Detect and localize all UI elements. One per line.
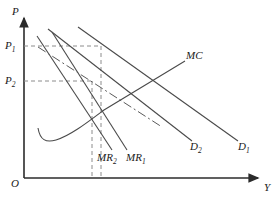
y-axis-label: P	[12, 6, 19, 17]
economics-diagram: P Y O P1 P2 MC D1 D2 MR1 MR2	[0, 0, 278, 202]
marginal-revenue-mr1	[52, 32, 127, 150]
price-tick-p2-label: P2	[5, 75, 15, 89]
x-axis-label: Y	[264, 182, 270, 193]
diagram-canvas	[0, 0, 278, 202]
curve-label-mr2: MR2	[97, 152, 117, 166]
curve-label-mr1: MR1	[126, 152, 146, 166]
curve-label-d2: D2	[190, 141, 202, 155]
price-tick-p1-label: P1	[5, 40, 15, 54]
marginal-cost-curve	[38, 61, 185, 141]
origin-label: O	[11, 178, 19, 189]
curve-label-d1: D1	[238, 141, 250, 155]
perceived-demand-dashdot-line	[38, 47, 162, 127]
curve-label-mc: MC	[186, 50, 203, 61]
